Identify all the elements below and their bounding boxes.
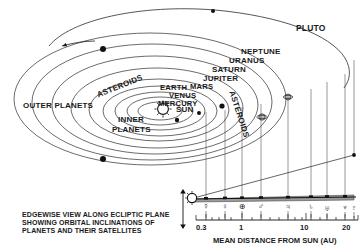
saturn-symbol: ♄ — [308, 203, 314, 211]
orbit-label-pluto: PLUTO — [296, 24, 326, 33]
axis-title: MEAN DISTANCE FROM SUN (AU) — [213, 236, 336, 245]
symbol-stems — [206, 211, 354, 218]
orbit-label-saturn: SATURN — [212, 66, 246, 74]
venus-symbol: ♀ — [222, 203, 228, 211]
marker-mars-body — [175, 118, 179, 122]
earth-symbol: ⊕ — [239, 203, 246, 211]
solar-system-figure: PLUTO NEPTUNE URANUS SATURN JUPITER EART… — [0, 0, 361, 252]
marker-jupiter-body — [219, 103, 224, 108]
neptune-symbol: ♆ — [342, 204, 348, 212]
edgewise-view — [180, 153, 356, 229]
mercury-symbol: ☿ — [203, 203, 209, 211]
marker-neptune-body — [100, 46, 106, 52]
caption-line-2: SHOWING ORBITAL INCLINATIONS OF — [22, 219, 169, 227]
orbit-label-mars: MARS — [190, 83, 213, 91]
orbit-label-outer-planets: OUTER PLANETS — [23, 102, 93, 110]
tick-label-0-3: 0.3 — [196, 223, 206, 232]
caption-line-3: PLANETS AND THEIR SATELLITES — [22, 227, 169, 235]
jupiter-symbol: ♃ — [285, 203, 291, 211]
marker-saturn-body — [257, 114, 268, 120]
pluto-direction-arrow — [62, 41, 95, 46]
orbit-label-uranus: URANUS — [229, 57, 264, 65]
tick-label-1: 1 — [239, 223, 243, 232]
marker-uranus-body — [100, 156, 106, 162]
distance-scale-ruler — [196, 213, 358, 220]
tick-label-10: 10 — [300, 223, 308, 232]
pluto-symbol: ♇ — [351, 204, 356, 211]
orbit-label-planets: PLANETS — [112, 126, 151, 134]
orbit-label-inner: INNER — [118, 116, 144, 124]
caption-line-1: EDGEWISE VIEW ALONG ECLIPTIC PLANE — [22, 211, 169, 219]
marker-belt-body — [197, 111, 201, 115]
uranus-symbol: ♅ — [324, 205, 330, 213]
sun-label: SUN — [176, 106, 194, 114]
edgewise-caption: EDGEWISE VIEW ALONG ECLIPTIC PLANE SHOWI… — [22, 211, 169, 236]
orbit-label-neptune: NEPTUNE — [241, 48, 281, 56]
tick-label-20: 20 — [342, 223, 350, 232]
marker-pluto-body — [211, 9, 215, 13]
mars-symbol: ♂ — [258, 203, 264, 211]
